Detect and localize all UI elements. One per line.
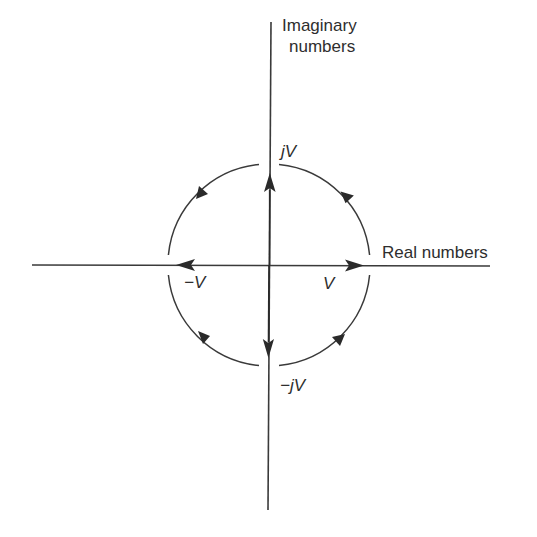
arc-quadrant-1 xyxy=(279,165,370,256)
arc-arrow-down-right-icon xyxy=(198,331,210,344)
axes xyxy=(32,22,490,510)
point-label-top: jV xyxy=(279,142,298,161)
real-axis xyxy=(32,265,490,266)
vector-down-shaft xyxy=(269,265,270,342)
complex-plane-diagram: Imaginary numbers Real numbers jV −V V −… xyxy=(0,0,537,537)
arc-arrow-up-right-icon xyxy=(332,334,345,346)
arc-arrow-down-left-icon xyxy=(196,186,208,199)
imaginary-axis-label-line1: Imaginary xyxy=(282,16,357,35)
arc-quadrant-3 xyxy=(168,275,259,366)
imaginary-axis-label-line2: numbers xyxy=(289,37,355,56)
real-axis-label: Real numbers xyxy=(382,243,488,262)
arc-quadrant-2 xyxy=(168,165,259,256)
point-label-bottom: −jV xyxy=(280,376,307,395)
point-label-left: −V xyxy=(184,273,207,292)
point-label-right: V xyxy=(323,274,336,293)
